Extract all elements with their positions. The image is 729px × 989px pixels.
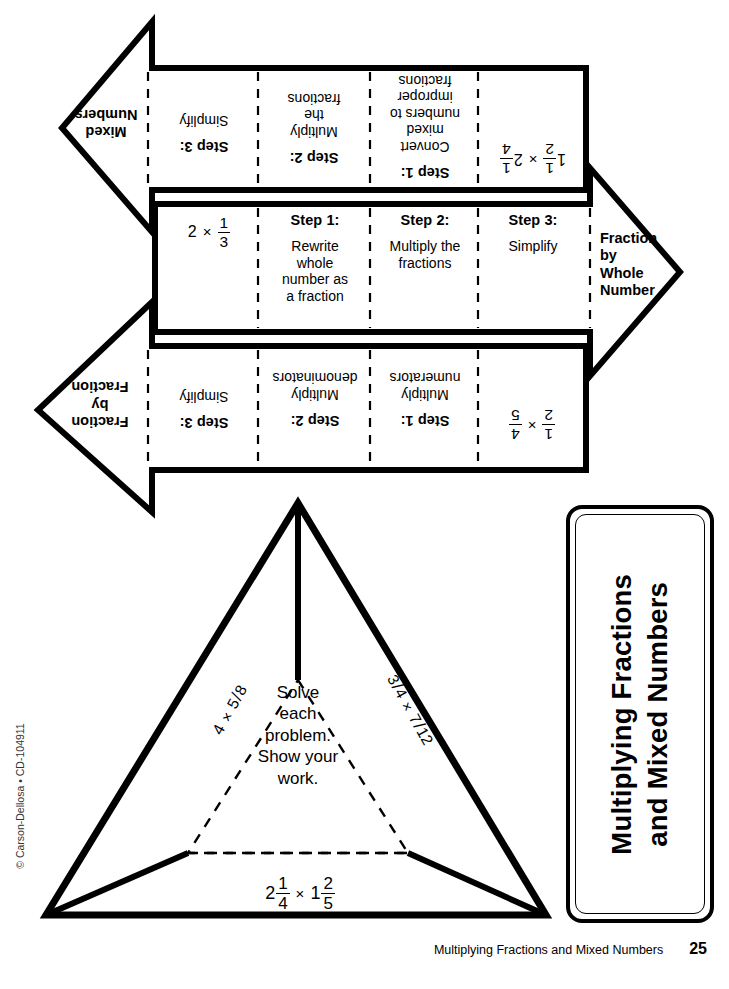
triangle-problem-bottom: 2 14 × 1 25 (200, 875, 400, 912)
arrow-label-fraction-by-whole-number: Fraction by Whole Number (600, 230, 686, 300)
arrow-label-mixed-numbers: Mixed Numbers (60, 105, 152, 140)
arrow-problem-fraction-by-fraction: 12 × 45 (482, 408, 582, 443)
title-box: Multiplying Fractions and Mixed Numbers (566, 505, 714, 923)
arrow-step-fraction-by-whole-number-3: Step 3: Simplify (480, 212, 586, 255)
page-footer: Multiplying Fractions and Mixed Numbers … (0, 940, 729, 958)
footer-title: Multiplying Fractions and Mixed Numbers (434, 943, 663, 957)
arrow-step-fraction-by-fraction-2: Step 2: Multiply denominators (260, 370, 370, 429)
arrow-step-mixed-numbers-2: Step 2: Multiply the fractions (260, 90, 368, 166)
title-text-wrapper: Multiplying Fractions and Mixed Numbers (570, 509, 710, 919)
arrow-step-fraction-by-whole-number-1: Step 1: Rewrite whole number as a fracti… (262, 212, 368, 304)
arrow-problem-fraction-by-whole-number: 2 × 13 (160, 215, 258, 249)
title-line-2: and Mixed Numbers (640, 574, 676, 855)
page-number: 25 (689, 940, 707, 958)
arrow-step-fraction-by-fraction-3: Step 3: Simplify (150, 388, 258, 431)
arrow-step-mixed-numbers-1: Step 1: Convert mixed numbers to imprope… (372, 72, 478, 181)
copyright-notice: © Carson-Dellosa • CD-104911 (14, 696, 26, 896)
arrow-problem-mixed-numbers: 1 12 × 2 14 (482, 142, 584, 176)
triangle-instruction: Solve each problem. Show your work. (228, 682, 368, 789)
worksheet-page: Mixed Numbers Step 3: Simplify Step 2: M… (0, 0, 729, 989)
arrow-step-fraction-by-whole-number-2: Step 2: Multiply the fractions (372, 212, 478, 271)
arrow-step-fraction-by-fraction-1: Step 1: Multiply numerators (372, 370, 478, 429)
arrow-label-fraction-by-fraction: Fraction by Fraction (52, 378, 148, 430)
arrow-step-mixed-numbers-3: Step 3: Simplify (150, 112, 258, 155)
title-line-1: Multiplying Fractions (604, 574, 640, 855)
